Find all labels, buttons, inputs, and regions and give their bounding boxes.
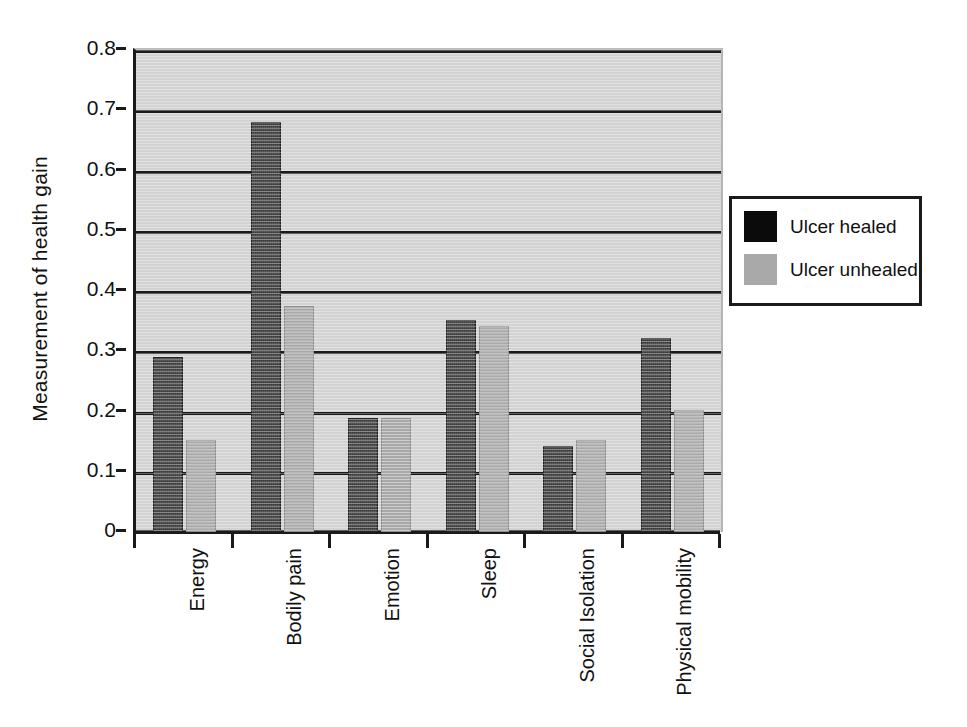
x-axis-label: Social Isolation [576, 548, 599, 683]
y-tick-mark [116, 409, 126, 412]
y-tick-mark [116, 469, 126, 472]
y-tick-label: 0.6 [87, 157, 116, 181]
y-tick-mark [116, 107, 126, 110]
y-axis-title: Measurement of health gain [18, 48, 62, 530]
y-tick-mark [116, 529, 126, 532]
y-tick-label: 0.3 [87, 337, 116, 361]
y-tick-label: 0 [104, 518, 116, 542]
x-tick-mark [133, 534, 136, 548]
y-tick-mark [116, 348, 126, 351]
bar [479, 326, 509, 532]
bar-chart-figure: Measurement of health gain 00.10.20.30.4… [0, 0, 967, 727]
legend-label: Ulcer healed [790, 216, 897, 238]
x-tick-mark [621, 534, 624, 548]
bar [381, 418, 411, 532]
y-tick-label: 0.5 [87, 217, 116, 241]
y-tick-mark [116, 228, 126, 231]
bar [543, 446, 573, 532]
legend-swatch-unhealed [744, 254, 777, 285]
y-tick-mark [116, 288, 126, 291]
bar [641, 338, 671, 532]
x-axis-label: Bodily pain [283, 548, 306, 646]
y-axis-ticks: 00.10.20.30.40.50.60.70.8 [62, 48, 126, 530]
x-axis-label: Sleep [478, 548, 501, 599]
legend-swatch-healed [744, 211, 777, 242]
bar [674, 410, 704, 532]
y-axis-title-text: Measurement of health gain [28, 156, 52, 422]
legend-item: Ulcer unhealed [744, 254, 918, 285]
bar [576, 440, 606, 532]
bar [284, 306, 314, 532]
bar [348, 418, 378, 532]
y-tick-label: 0.2 [87, 398, 116, 422]
chart-legend: Ulcer healedUlcer unhealed [729, 196, 922, 306]
x-tick-mark [426, 534, 429, 548]
x-tick-mark [328, 534, 331, 548]
y-tick-label: 0.1 [87, 458, 116, 482]
y-tick-label: 0.4 [87, 277, 116, 301]
y-tick-label: 0.8 [87, 36, 116, 60]
bar [251, 122, 281, 532]
legend-item: Ulcer healed [744, 211, 897, 242]
x-axis-label: Physical mobility [673, 548, 696, 696]
bar [446, 320, 476, 532]
bar [153, 357, 183, 532]
plot-area [133, 48, 723, 532]
legend-label: Ulcer unhealed [790, 259, 918, 281]
y-tick-label: 0.7 [87, 96, 116, 120]
x-axis-label: Energy [186, 548, 209, 611]
bar [186, 440, 216, 532]
x-axis-labels: EnergyBodily painEmotionSleepSocial Isol… [133, 548, 720, 723]
y-tick-mark [116, 47, 126, 50]
y-tick-mark [116, 168, 126, 171]
x-tick-mark [718, 534, 721, 548]
x-axis-label: Emotion [381, 548, 404, 621]
x-tick-mark [231, 534, 234, 548]
x-tick-mark [523, 534, 526, 548]
bar-series-group [136, 50, 721, 532]
